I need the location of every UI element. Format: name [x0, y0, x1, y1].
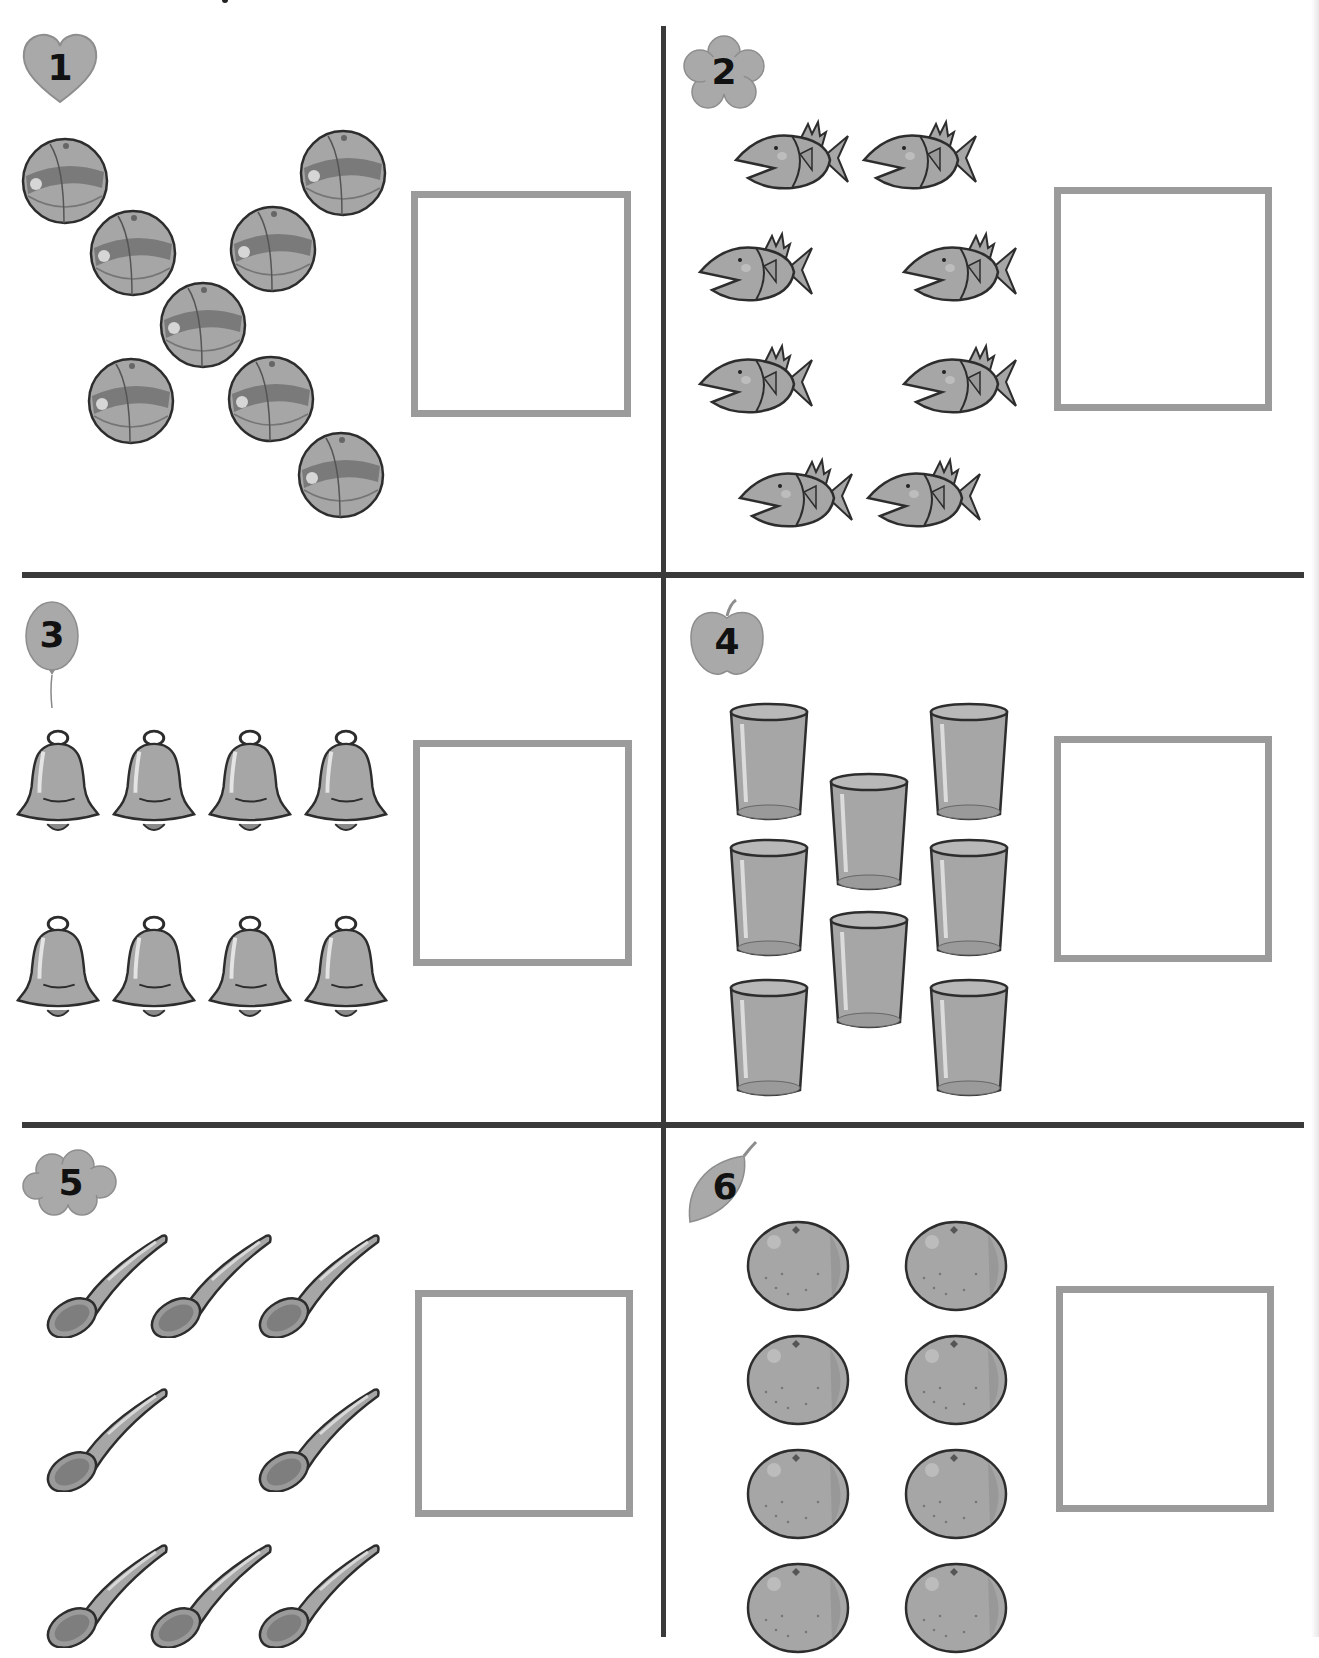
orange-icon: [746, 1332, 850, 1430]
spoon-icon: [254, 1228, 384, 1342]
problem-number: 5: [58, 1165, 83, 1201]
cup-icon: [728, 702, 810, 826]
answer-box-4[interactable]: [1054, 736, 1272, 962]
cup-icon: [828, 772, 910, 896]
fish-icon: [898, 230, 1018, 314]
answer-box-2[interactable]: [1054, 187, 1272, 411]
spoon-icon: [42, 1382, 172, 1496]
bell-icon: [110, 728, 198, 840]
cup-icon: [728, 838, 810, 962]
cup-icon: [928, 702, 1010, 826]
orange-icon: [904, 1560, 1008, 1658]
orange-icon: [904, 1332, 1008, 1430]
bell-icon: [206, 728, 294, 840]
orange-icon: [904, 1218, 1008, 1316]
flower-icon: 2: [682, 34, 766, 110]
orange-icon: [746, 1446, 850, 1544]
cloud-icon: 5: [22, 1148, 120, 1218]
cup-icon: [928, 838, 1010, 962]
fish-icon: [730, 118, 850, 202]
bell-icon: [110, 914, 198, 1026]
heart-icon: 1: [20, 30, 100, 106]
cropped-heading-fragment: [222, 0, 228, 3]
bell-icon: [14, 914, 102, 1026]
balloon-icon: 3: [22, 600, 82, 710]
fish-icon: [858, 118, 978, 202]
cup-icon: [728, 978, 810, 1102]
cup-icon: [828, 910, 910, 1034]
answer-box-1[interactable]: [411, 191, 631, 417]
page-edge-shadow: [1311, 0, 1319, 1637]
problem-number: 3: [39, 617, 64, 653]
horizontal-divider-2: [22, 1122, 1304, 1128]
problem-number: 2: [711, 54, 736, 90]
horizontal-divider-1: [22, 572, 1304, 578]
fish-icon: [862, 456, 982, 540]
fish-icon: [694, 342, 814, 426]
bell-icon: [14, 728, 102, 840]
fish-icon: [898, 342, 1018, 426]
fish-icon: [734, 456, 854, 540]
beach-ball-icon: [86, 356, 176, 450]
answer-box-5[interactable]: [415, 1290, 633, 1517]
orange-icon: [746, 1560, 850, 1658]
answer-box-3[interactable]: [413, 740, 632, 966]
bell-icon: [302, 728, 390, 840]
spoon-icon: [254, 1538, 384, 1652]
vertical-divider: [661, 26, 666, 1637]
cup-icon: [928, 978, 1010, 1102]
apple-icon: 4: [686, 598, 768, 678]
problem-number: 1: [47, 50, 72, 86]
problem-number: 6: [712, 1169, 737, 1205]
orange-icon: [904, 1446, 1008, 1544]
bell-icon: [302, 914, 390, 1026]
orange-icon: [746, 1218, 850, 1316]
answer-box-6[interactable]: [1056, 1286, 1274, 1512]
problem-number: 4: [714, 624, 739, 660]
spoon-icon: [254, 1382, 384, 1496]
fish-icon: [694, 230, 814, 314]
beach-ball-icon: [296, 430, 386, 524]
leaf-icon: 6: [684, 1140, 766, 1226]
bell-icon: [206, 914, 294, 1026]
